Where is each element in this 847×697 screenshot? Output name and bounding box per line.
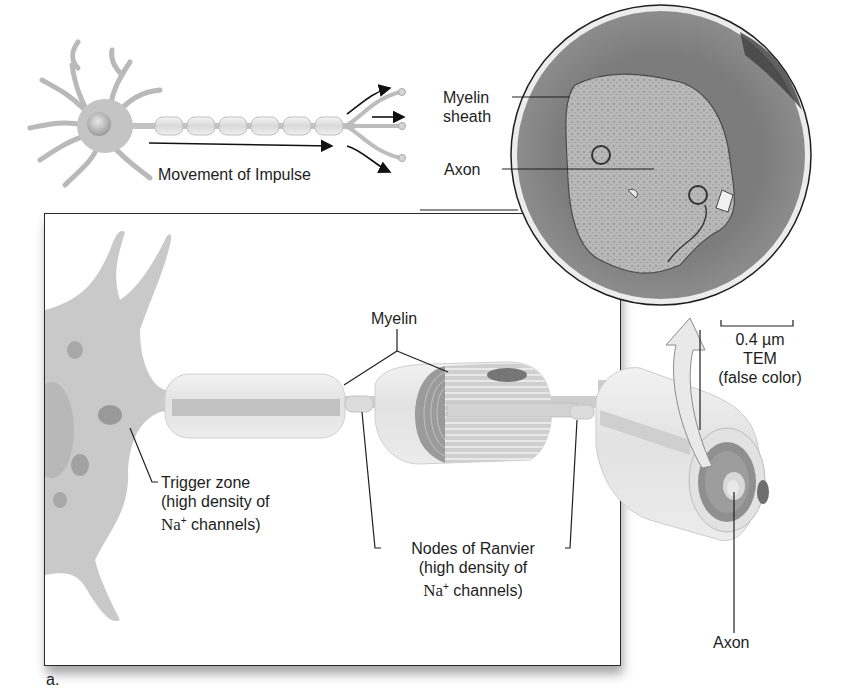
myelin-sheath-label-line1: Myelin: [443, 88, 491, 107]
movement-of-impulse-label: Movement of Impulse: [158, 165, 311, 184]
trigger-zone-line3: Na+ channels): [161, 511, 270, 534]
sodium-symbol: Na: [161, 515, 181, 534]
trigger-zone-line1: Trigger zone: [161, 473, 270, 492]
nodes-line3: Na+ channels): [380, 577, 566, 600]
cylinder-axon-label: Axon: [713, 633, 749, 652]
myelin-sheath-label-line2: sheath: [443, 107, 491, 126]
sodium-symbol: Na: [423, 581, 443, 600]
panel-label: a.: [46, 670, 59, 689]
false-color-note: (false color): [704, 368, 816, 387]
nodes-line2: (high density of: [380, 558, 566, 577]
channels-text: channels): [187, 516, 261, 533]
channels-text: channels): [449, 582, 523, 599]
nodes-line1: Nodes of Ranvier: [380, 539, 566, 558]
nodes-of-ranvier-label: Nodes of Ranvier (high density of Na+ ch…: [380, 539, 566, 600]
myelin-label: Myelin: [371, 309, 417, 328]
scale-bar-value: 0.4 µm: [704, 330, 816, 349]
trigger-zone-line2: (high density of: [161, 492, 270, 511]
tem-label: TEM: [704, 349, 816, 368]
myelin-sheath-label: Myelin sheath: [443, 88, 491, 126]
micrograph-axon-label: Axon: [444, 160, 480, 179]
trigger-zone-label: Trigger zone (high density of Na+ channe…: [161, 473, 270, 534]
overview-neuron: Movement of Impulse: [0, 0, 420, 200]
scale-caption: 0.4 µm TEM (false color): [704, 330, 816, 387]
